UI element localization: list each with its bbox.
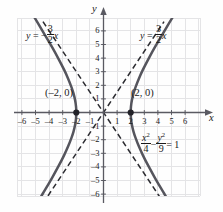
y-tick-label: 5 xyxy=(82,40,100,49)
y-tick-label: –4 xyxy=(82,162,100,171)
y-tick-label: 6 xyxy=(82,26,100,35)
vertex-point-right xyxy=(128,109,134,115)
conic-equation-label: x24−y29= 1 xyxy=(141,133,179,155)
y-tick-label: 4 xyxy=(82,54,100,63)
y-tick-label: 1 xyxy=(82,94,100,103)
y-axis-arrowhead xyxy=(100,7,106,15)
y-tick-label: 3 xyxy=(82,67,100,76)
x-axis-label: x xyxy=(209,113,214,124)
hyperbola-figure: –6–5–4–3–2–1123456–6–5–4–3–2–1123456 y =… xyxy=(0,0,223,212)
y-tick-label: –3 xyxy=(82,149,100,158)
vertex-point-left xyxy=(73,109,79,115)
y-axis-label: y xyxy=(92,4,97,15)
vertex-label-right: (2, 0) xyxy=(131,88,154,99)
asymptote-label-left: y = −32x xyxy=(26,24,58,46)
y-tick-label: –6 xyxy=(82,190,100,199)
vertex-label-left: (–2, 0) xyxy=(45,88,73,99)
asymptote-label-right: y = 32x xyxy=(140,24,167,46)
y-tick-label: –5 xyxy=(82,176,100,185)
x-tick-label: 6 xyxy=(175,117,195,126)
y-tick-label: 2 xyxy=(82,81,100,90)
y-tick-label: –2 xyxy=(82,135,100,144)
y-tick-label: –1 xyxy=(82,122,100,131)
